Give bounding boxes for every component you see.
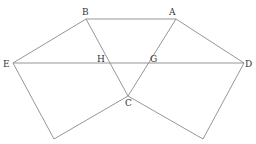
point-label-d: D [245,59,252,69]
segment-p1-c [54,96,128,139]
segment-e-p1 [13,63,54,139]
segment-b-e [13,19,86,63]
segment-c-p2 [128,96,203,139]
point-label-a: A [168,7,176,17]
diagram-canvas: A B C D E G H [0,0,256,144]
labels-group: A B C D E G H [3,7,252,108]
segment-p2-d [203,63,244,139]
point-label-e: E [3,59,10,69]
segment-a-d [176,19,244,63]
segment-b-c [86,19,128,96]
geometry-diagram: A B C D E G H [0,0,256,144]
point-label-c: C [125,98,132,108]
segments-group [13,19,244,139]
point-label-h: H [97,54,105,64]
point-label-b: B [82,7,89,17]
point-label-g: G [150,54,157,64]
